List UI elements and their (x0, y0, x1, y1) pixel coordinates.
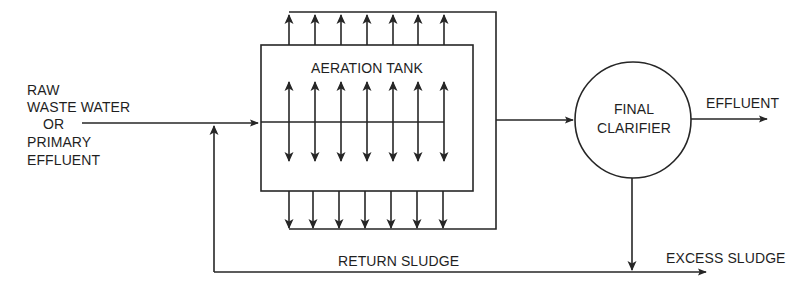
bottom-aeration-arrows (289, 191, 443, 228)
excess-sludge-label: EXCESS SLUDGE (666, 250, 786, 266)
influent-label-line3: OR (43, 116, 64, 132)
effluent-label: EFFLUENT (706, 95, 779, 111)
influent-label-line5: EFFLUENT (27, 152, 100, 168)
influent-label-line2: WASTE WATER (27, 99, 130, 115)
influent-label-line4: PRIMARY (27, 134, 91, 150)
influent-label-line1: RAW (27, 82, 59, 98)
top-aeration-arrows (289, 15, 444, 45)
clarifier-label-line1: FINAL (614, 101, 654, 117)
aeration-tank-label: AERATION TANK (311, 60, 423, 76)
return-sludge-label: RETURN SLUDGE (338, 253, 459, 269)
clarifier-label-line2: CLARIFIER (597, 120, 671, 136)
